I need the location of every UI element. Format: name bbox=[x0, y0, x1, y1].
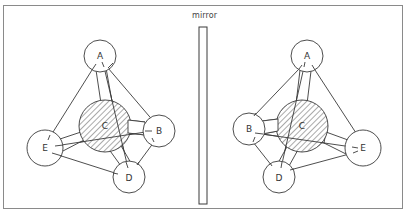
label-c-left: C bbox=[102, 121, 108, 131]
label-b-left: B bbox=[156, 126, 162, 136]
mirror-plane bbox=[199, 27, 207, 204]
label-e-right: E bbox=[360, 143, 366, 153]
label-c-right: C bbox=[299, 121, 305, 131]
right-molecule bbox=[233, 40, 381, 193]
label-a-right: A bbox=[304, 51, 311, 61]
label-e-left: E bbox=[42, 143, 48, 153]
left-molecule bbox=[27, 40, 175, 193]
label-d-left: D bbox=[126, 173, 133, 183]
bond-c-a-right bbox=[296, 70, 311, 104]
label-d-right: D bbox=[276, 173, 283, 183]
label-a-left: A bbox=[97, 51, 104, 61]
bond-c-e-right bbox=[324, 132, 348, 154]
label-b-right: B bbox=[246, 124, 252, 134]
enantiomer-diagram: A B D E C bbox=[0, 0, 407, 214]
